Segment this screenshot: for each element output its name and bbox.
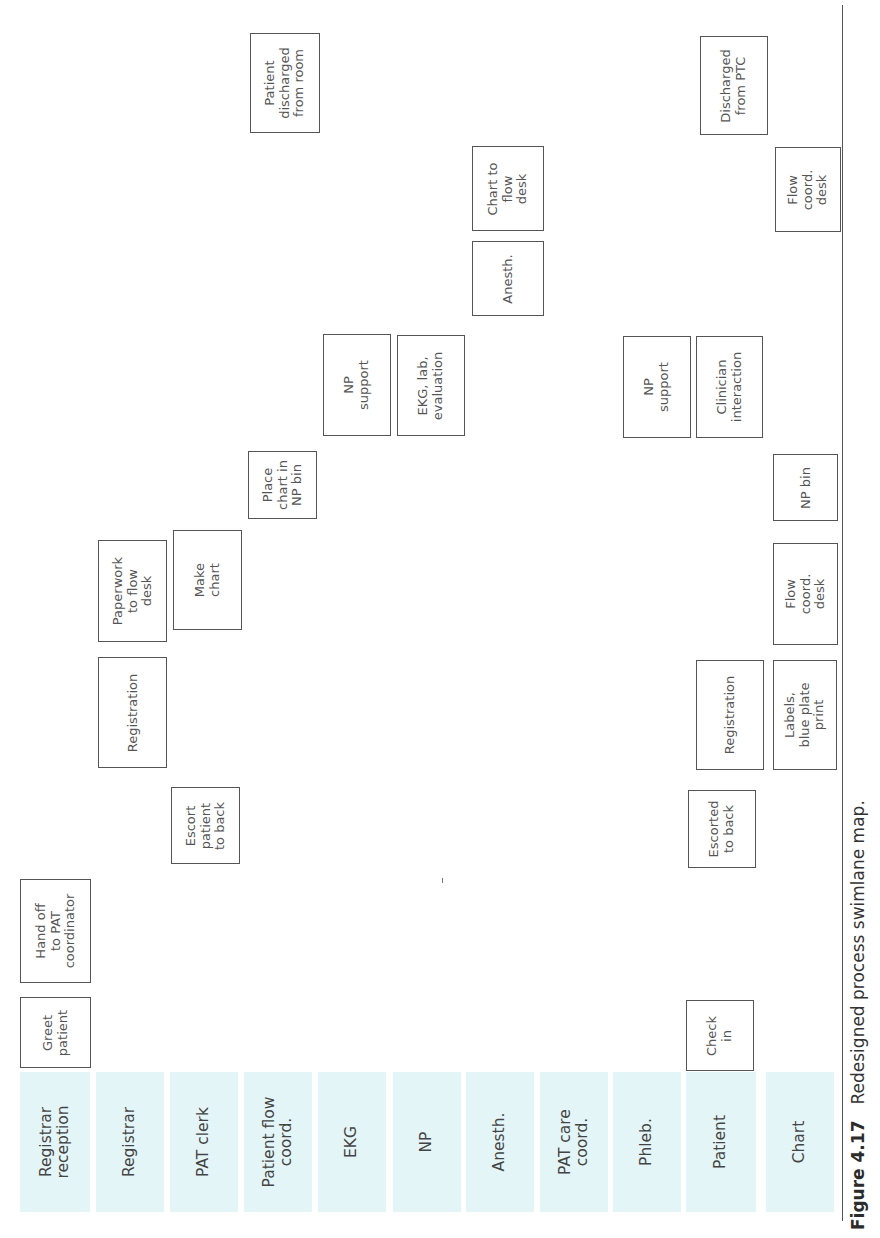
- lane-label: Anesth.: [491, 1113, 508, 1172]
- step-label: Hand off to PAT coordinator: [34, 894, 78, 969]
- lane-label: Patient flow coord.: [261, 1097, 296, 1188]
- lane-header-phleb: Phleb.: [613, 1072, 681, 1212]
- lane-label: Patient: [712, 1115, 729, 1169]
- step-label: Registration: [125, 673, 140, 751]
- step-np-support-phleb: NP support: [623, 336, 691, 438]
- lane-label: Registrar reception: [38, 1105, 73, 1178]
- lane-header-pat-care-coord: PAT care coord.: [540, 1072, 608, 1212]
- lane-label: NP: [418, 1132, 435, 1153]
- step-make-chart: Make chart: [173, 530, 242, 630]
- lane-header-registrar-reception: Registrar reception: [20, 1072, 90, 1212]
- step-label: Check in: [705, 1016, 734, 1056]
- step-label: Escort patient to back: [184, 801, 228, 849]
- lane-label: PAT care coord.: [557, 1109, 592, 1175]
- step-labels-blue-plate-print: Labels, blue plate print: [773, 660, 837, 770]
- step-chart-to-flow-desk: Chart to flow desk: [472, 146, 544, 231]
- step-clinician-interaction: Clinician interaction: [696, 336, 763, 438]
- step-label: Greet patient: [41, 1009, 70, 1055]
- lane-label: Chart: [791, 1121, 808, 1164]
- step-hand-off-to-pat-coordinator: Hand off to PAT coordinator: [20, 879, 91, 983]
- lane-label: Registrar: [121, 1107, 138, 1177]
- lane-header-registrar: Registrar: [96, 1072, 164, 1212]
- step-label: NP bin: [798, 467, 813, 509]
- step-flow-coord-desk-2: Flow coord. desk: [775, 147, 841, 232]
- step-label: Make chart: [193, 563, 222, 597]
- step-label: Escorted to back: [707, 801, 736, 858]
- lane-header-np: NP: [393, 1072, 461, 1212]
- lane-header-anesth: Anesth.: [466, 1072, 534, 1212]
- figure-caption: Figure 4.17Redesigned process swimlane m…: [848, 800, 868, 1230]
- step-label: Anesth.: [501, 254, 516, 303]
- step-registration-patient: Registration: [696, 660, 764, 770]
- lane-header-pat-clerk: PAT clerk: [170, 1072, 238, 1212]
- step-label: Flow coord. desk: [786, 169, 830, 210]
- step-check-in: Check in: [686, 1000, 754, 1071]
- step-paperwork-to-flow-desk: Paperwork to flow desk: [98, 540, 167, 642]
- lane-label: Phleb.: [638, 1118, 655, 1166]
- figure-caption-text: Redesigned process swimlane map.: [848, 800, 868, 1104]
- step-label: Patient discharged from room: [263, 47, 307, 119]
- lane-label: EKG: [343, 1126, 360, 1158]
- step-np-support-ekg: NP support: [323, 334, 391, 436]
- stray-mark: [442, 878, 443, 883]
- lane-header-ekg: EKG: [318, 1072, 386, 1212]
- step-registration-registrar: Registration: [98, 657, 167, 768]
- step-label: Place chart in NP bin: [261, 460, 305, 510]
- step-np-bin: NP bin: [773, 454, 838, 521]
- step-label: Labels, blue plate print: [783, 682, 827, 747]
- caption-divider: [842, 5, 843, 1221]
- step-escort-patient-to-back: Escort patient to back: [171, 787, 240, 864]
- step-ekg-lab-evaluation: EKG, lab, evaluation: [397, 335, 465, 436]
- step-anesth: Anesth.: [472, 241, 544, 316]
- step-label: Registration: [723, 676, 738, 754]
- step-label: Chart to flow desk: [486, 162, 530, 215]
- step-flow-coord-desk-1: Flow coord. desk: [773, 543, 838, 645]
- step-label: Discharged from PTC: [719, 49, 748, 122]
- step-greet-patient: Greet patient: [20, 997, 91, 1068]
- step-label: Paperwork to flow desk: [111, 557, 155, 625]
- lane-label: PAT clerk: [195, 1107, 212, 1177]
- lane-header-patient-flow-coord: Patient flow coord.: [244, 1072, 312, 1212]
- step-patient-discharged-from-room: Patient discharged from room: [250, 33, 320, 133]
- step-label: NP support: [642, 362, 671, 412]
- lane-header-patient: Patient: [686, 1072, 756, 1212]
- step-place-chart-in-np-bin: Place chart in NP bin: [248, 451, 317, 519]
- lane-header-chart: Chart: [766, 1072, 834, 1212]
- step-label: Clinician interaction: [715, 352, 744, 422]
- step-label: NP support: [342, 360, 371, 410]
- step-discharged-from-ptc: Discharged from PTC: [700, 36, 768, 135]
- step-label: Flow coord. desk: [784, 574, 828, 615]
- step-label: EKG, lab, evaluation: [416, 351, 445, 419]
- figure-number: Figure 4.17: [848, 1121, 868, 1231]
- step-escorted-to-back: Escorted to back: [688, 790, 756, 868]
